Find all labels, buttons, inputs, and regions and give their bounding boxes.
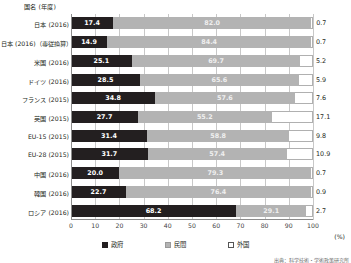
category-label: 英国 (2015): [1, 114, 69, 123]
bar-value-label: 55.2: [138, 113, 272, 121]
bar-value-label: 82.0: [113, 19, 311, 27]
bar-segment-government: 31.7: [71, 148, 148, 160]
bar-segment-private: 76.4: [126, 186, 311, 198]
x-tick-label: 70: [236, 222, 244, 229]
category-label: 日本 (2016): [1, 20, 69, 29]
bar-segment-foreign: [295, 92, 313, 104]
source-note: 出典：科学技術・学術政策研究所: [274, 256, 349, 263]
bar-segment-government: 25.1: [71, 55, 132, 67]
plot-area: 17.482.00.714.984.40.725.169.75.228.565.…: [71, 14, 313, 220]
category-label: 中国 (2016): [1, 170, 69, 179]
foreign-value-label: 17.1: [316, 113, 330, 121]
x-tick-label: 80: [261, 222, 269, 229]
legend-item: 民間: [165, 240, 186, 249]
x-tick-label: 50: [188, 222, 196, 229]
unit-label: (%): [334, 233, 345, 240]
category-label: 米国 (2016): [1, 58, 69, 67]
table-row: 68.229.12.7: [71, 205, 313, 217]
bar-value-label: 22.7: [71, 188, 126, 196]
x-tick-label: 0: [69, 222, 73, 229]
bar-segment-government: 17.4: [71, 17, 113, 29]
category-label: フランス (2015): [1, 95, 69, 104]
gridline: [313, 14, 314, 220]
legend: 政府民間外国: [0, 240, 351, 249]
bar-segment-foreign: [272, 111, 313, 123]
foreign-value-label: 9.8: [316, 132, 326, 140]
bar-segment-private: 82.0: [113, 17, 311, 29]
bar-segment-government: 27.7: [71, 111, 138, 123]
table-row: 34.857.67.6: [71, 92, 313, 104]
category-label: EU-28 (2015): [1, 151, 69, 158]
x-axis-line: [71, 219, 313, 220]
bar-value-label: 27.7: [71, 113, 138, 121]
bar-value-label: 31.7: [71, 150, 148, 158]
legend-swatch-private: [165, 242, 171, 248]
bar-segment-private: 79.3: [119, 167, 311, 179]
bar-value-label: 29.1: [236, 207, 306, 215]
table-row: 22.776.40.9: [71, 186, 313, 198]
bar-value-label: 20.0: [71, 169, 119, 177]
legend-label: 民間: [174, 240, 186, 249]
bar-segment-foreign: [300, 55, 313, 67]
legend-item: 政府: [102, 240, 123, 249]
foreign-value-label: 0.7: [316, 169, 326, 177]
bar-value-label: 69.7: [132, 57, 301, 65]
bar-value-label: 68.2: [71, 207, 236, 215]
category-label: ロシア (2016): [1, 208, 69, 217]
y-axis-line: [71, 14, 72, 220]
category-label: EU-15 (2015): [1, 133, 69, 140]
bar-value-label: 58.8: [147, 132, 289, 140]
bar-value-label: 79.3: [119, 169, 311, 177]
legend-label: 外国: [237, 240, 249, 249]
legend-item: 外国: [228, 240, 249, 249]
bar-segment-foreign: [306, 205, 313, 217]
bar-segment-government: 22.7: [71, 186, 126, 198]
x-tick-label: 90: [285, 222, 293, 229]
bar-value-label: 28.5: [71, 76, 140, 84]
bar-value-label: 31.4: [71, 132, 147, 140]
bar-value-label: 14.9: [71, 38, 107, 46]
bar-segment-private: 57.6: [155, 92, 294, 104]
bar-segment-government: 31.4: [71, 130, 147, 142]
bar-segment-foreign: [311, 36, 313, 48]
bar-segment-foreign: [311, 167, 313, 179]
bar-segment-foreign: [299, 74, 313, 86]
legend-label: 政府: [111, 240, 123, 249]
category-label: 韓国 (2016): [1, 189, 69, 198]
bar-segment-private: 69.7: [132, 55, 301, 67]
bar-value-label: 34.8: [71, 94, 155, 102]
category-label: 日本 (2016)（専従換算）: [1, 39, 69, 48]
x-tick-label: 30: [140, 222, 148, 229]
table-row: 14.984.40.7: [71, 36, 313, 48]
x-tick-label: 10: [91, 222, 99, 229]
bar-segment-private: 65.6: [140, 74, 299, 86]
legend-swatch-foreign: [228, 242, 234, 248]
foreign-value-label: 5.2: [316, 57, 326, 65]
bar-segment-private: 84.4: [107, 36, 311, 48]
bar-segment-government: 68.2: [71, 205, 236, 217]
x-tick-label: 100: [307, 222, 319, 229]
bar-value-label: 76.4: [126, 188, 311, 196]
table-row: 31.757.410.9: [71, 148, 313, 160]
foreign-value-label: 0.7: [316, 38, 326, 46]
foreign-value-label: 0.9: [316, 188, 326, 196]
table-row: 27.755.217.1: [71, 111, 313, 123]
bar-value-label: 65.6: [140, 76, 299, 84]
legend-swatch-government: [102, 242, 108, 248]
foreign-value-label: 10.9: [316, 150, 330, 158]
bar-segment-government: 14.9: [71, 36, 107, 48]
table-row: 17.482.00.7: [71, 17, 313, 29]
category-label: ドイツ (2016): [1, 77, 69, 86]
bar-segment-private: 57.4: [148, 148, 287, 160]
bar-value-label: 25.1: [71, 57, 132, 65]
table-row: 25.169.75.2: [71, 55, 313, 67]
bar-value-label: 57.4: [148, 150, 287, 158]
x-tick-label: 60: [212, 222, 220, 229]
bar-segment-foreign: [289, 130, 313, 142]
foreign-value-label: 0.7: [316, 19, 326, 27]
table-row: 28.565.65.9: [71, 74, 313, 86]
bar-segment-private: 55.2: [138, 111, 272, 123]
foreign-value-label: 2.7: [316, 207, 326, 215]
stacked-bar-chart: 国名 (年度) 日本 (2016)日本 (2016)（専従換算）米国 (2016…: [0, 0, 351, 263]
bar-value-label: 84.4: [107, 38, 311, 46]
